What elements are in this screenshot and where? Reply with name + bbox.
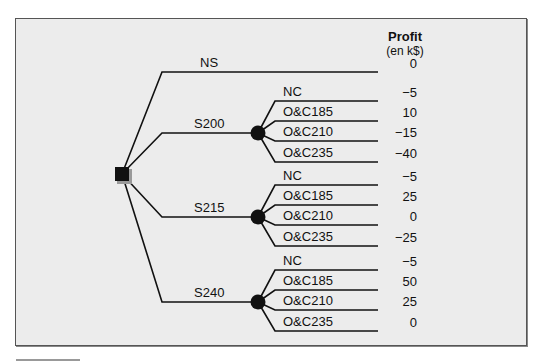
branch-label-s215: S215 [194, 200, 224, 215]
profit-value: −5 [402, 169, 417, 184]
branch-s240 [122, 174, 258, 302]
profit-value: 0 [410, 315, 417, 330]
profit-value: −5 [402, 85, 417, 100]
outcome-label: O&C185 [283, 273, 333, 288]
decision-node [115, 167, 129, 181]
outcome-label: O&C185 [283, 104, 333, 119]
profit-value: 0 [410, 56, 417, 71]
outcome-label: O&C235 [283, 314, 333, 329]
branch-ns [122, 72, 378, 174]
profit-value: −25 [395, 230, 417, 245]
outcome-label: NC [283, 168, 302, 183]
outcome-label: O&C210 [283, 293, 333, 308]
profit-header: Profit [388, 29, 423, 44]
profit-value: 25 [403, 294, 417, 309]
profit-value: −40 [395, 146, 417, 161]
profit-value: 50 [403, 274, 417, 289]
outcome-label: NC [283, 84, 302, 99]
branch-label-s200: S200 [194, 116, 224, 131]
outcome-label: O&C235 [283, 229, 333, 244]
outcome-label: NC [283, 253, 302, 268]
outcome-label: O&C235 [283, 145, 333, 160]
profit-value: 0 [410, 209, 417, 224]
profit-value: −5 [402, 254, 417, 269]
branch-label-ns: NS [200, 55, 218, 70]
branch-s200 [122, 133, 258, 174]
chance-node [251, 126, 266, 141]
chance-node [251, 295, 266, 310]
chance-node [251, 210, 266, 225]
profit-value: 10 [403, 105, 417, 120]
profit-value: −15 [395, 125, 417, 140]
decision-tree: Profit (en k$) NS0S200NC−5O&C18510O&C210… [0, 0, 543, 362]
profit-value: 25 [403, 189, 417, 204]
branch-label-s240: S240 [194, 285, 224, 300]
outcome-label: O&C210 [283, 124, 333, 139]
outcome-label: O&C210 [283, 208, 333, 223]
outcome-label: O&C185 [283, 188, 333, 203]
branch-s215 [122, 174, 258, 217]
profit-unit: (en k$) [386, 44, 423, 58]
